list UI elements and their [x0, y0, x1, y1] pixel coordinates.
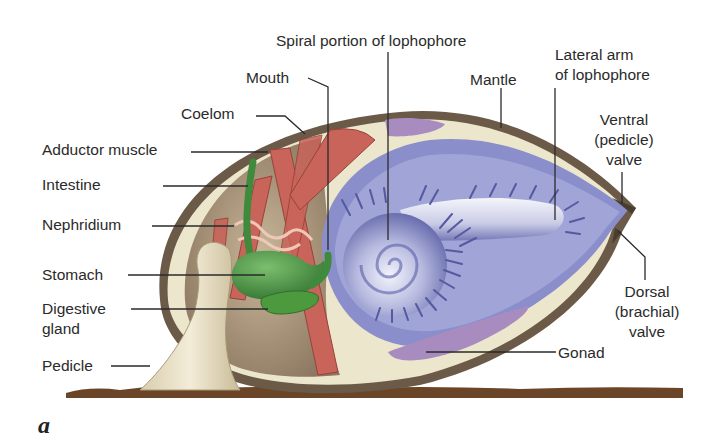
label-digestive-gland-line2: gland — [42, 319, 80, 338]
label-ventral-valve-line2: (pedicle) — [588, 130, 660, 149]
label-lateral-arm-line2: of lophophore — [555, 65, 650, 84]
label-coelom: Coelom — [181, 104, 234, 123]
label-dorsal-valve-line3: valve — [605, 322, 689, 341]
spiral-lophophore — [343, 213, 447, 317]
label-gonad: Gonad — [558, 343, 605, 362]
label-digestive-gland-line1: Digestive — [42, 299, 106, 318]
label-mantle: Mantle — [470, 70, 517, 89]
label-stomach: Stomach — [42, 265, 103, 284]
panel-letter: a — [38, 412, 50, 437]
label-intestine: Intestine — [42, 175, 101, 194]
label-ventral-valve-line3: valve — [588, 150, 660, 169]
label-dorsal-valve-line2: (brachial) — [605, 302, 689, 321]
label-dorsal-valve-line1: Dorsal — [605, 282, 689, 301]
label-lateral-arm-line1: Lateral arm — [555, 45, 633, 64]
label-adductor-muscle: Adductor muscle — [42, 140, 157, 159]
label-ventral-valve-line1: Ventral — [588, 110, 660, 129]
label-spiral-lophophore: Spiral portion of lophophore — [276, 31, 466, 50]
label-mouth: Mouth — [246, 68, 289, 87]
label-pedicle: Pedicle — [42, 356, 93, 375]
label-nephridium: Nephridium — [42, 215, 121, 234]
